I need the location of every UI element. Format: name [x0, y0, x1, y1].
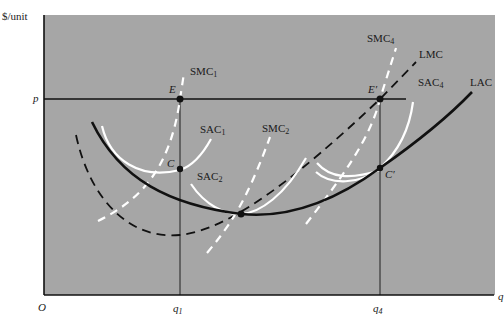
point-e-prime: [377, 96, 384, 103]
lac-label: LAC: [470, 77, 492, 88]
sac4-label: SAC4: [418, 77, 443, 90]
point-e-prime-label: E′: [368, 84, 377, 95]
smc4-curve: [306, 48, 396, 224]
point-e: [177, 96, 184, 103]
q1-tick-label: q1: [173, 303, 183, 316]
sac2-label: SAC2: [197, 171, 222, 184]
sac2-curve: [191, 158, 306, 214]
lmc-label: LMC: [419, 49, 443, 60]
lac-curve: [92, 92, 472, 215]
y-axis-label: $/unit: [2, 11, 28, 22]
q4-tick-label: q4: [373, 303, 383, 316]
point-c: [177, 166, 183, 172]
sac1-label: SAC1: [200, 124, 225, 137]
price-label: p: [33, 93, 39, 104]
origin-label: O: [38, 302, 46, 313]
smc4-label: SMC4: [367, 33, 394, 46]
point-e-label: E: [169, 84, 176, 95]
point-c-prime-label: C′: [385, 169, 395, 180]
point-lac-min: [238, 211, 245, 218]
x-axis-label: q: [498, 291, 504, 302]
lmc-curve: [76, 62, 416, 235]
point-c-prime: [377, 165, 383, 171]
sac1-curve: [102, 126, 211, 173]
smc2-curve: [207, 137, 270, 253]
smc1-label: SMC1: [190, 66, 217, 79]
smc2-label: SMC2: [262, 123, 289, 136]
point-c-label: C: [167, 158, 174, 169]
